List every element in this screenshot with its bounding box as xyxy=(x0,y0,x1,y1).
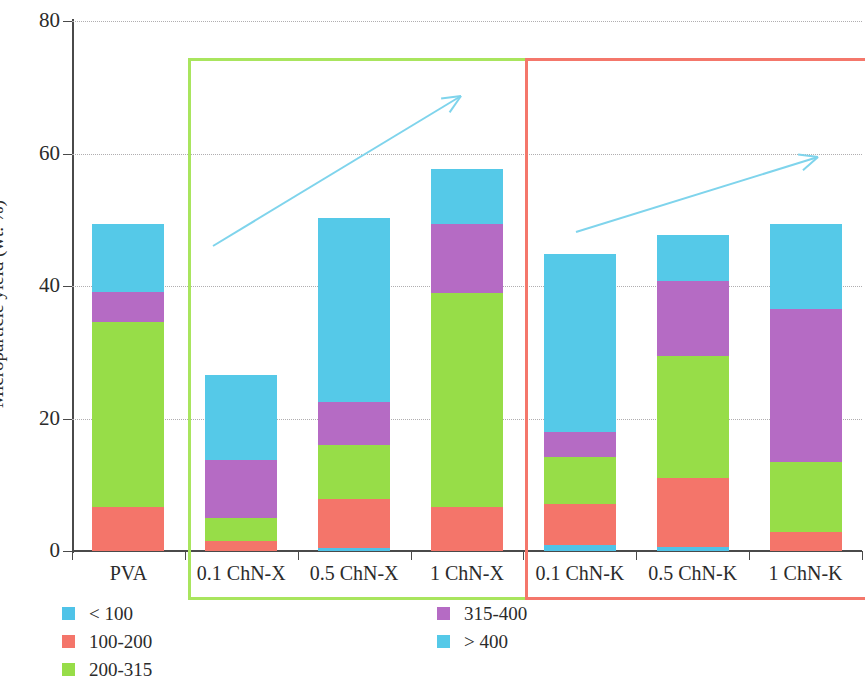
legend-label: 100-200 xyxy=(89,632,152,651)
legend-label: > 400 xyxy=(464,632,508,651)
y-tick-label: 0 xyxy=(50,540,61,561)
y-tick-mark xyxy=(63,21,72,22)
y-tick-mark xyxy=(63,419,72,420)
legend-label: 200-315 xyxy=(89,660,152,678)
y-axis-title: Microparticle yield (wt. %) xyxy=(0,200,8,408)
legend-label: 315-400 xyxy=(464,604,527,623)
legend-item[interactable]: < 100 xyxy=(62,604,133,623)
x-tick-mark xyxy=(72,551,73,560)
y-tick-mark xyxy=(63,551,72,552)
legend-item[interactable]: 100-200 xyxy=(62,632,152,651)
y-tick-mark xyxy=(63,154,72,155)
bar-segment[interactable] xyxy=(92,292,164,322)
y-tick-label: 20 xyxy=(39,408,60,429)
bar-segment[interactable] xyxy=(92,224,164,292)
legend-swatch-icon xyxy=(62,663,75,676)
chn-k-group xyxy=(525,58,865,600)
legend-item[interactable]: 200-315 xyxy=(62,660,152,678)
legend-swatch-icon xyxy=(62,607,75,620)
bar-segment[interactable] xyxy=(92,507,164,551)
chart-legend: < 100100-200200-315315-400> 400 xyxy=(62,604,802,678)
x-tick-mark xyxy=(185,551,186,560)
y-tick-label: 40 xyxy=(39,275,60,296)
y-tick-label: 60 xyxy=(39,143,60,164)
x-axis-label-pva: PVA xyxy=(72,562,185,585)
y-tick-mark xyxy=(63,286,72,287)
bar-pva[interactable] xyxy=(92,21,164,551)
y-tick-label: 80 xyxy=(39,10,60,31)
legend-swatch-icon xyxy=(62,635,75,648)
chn-x-group xyxy=(188,58,528,600)
legend-swatch-icon xyxy=(437,635,450,648)
legend-swatch-icon xyxy=(437,607,450,620)
legend-item[interactable]: > 400 xyxy=(437,632,508,651)
bar-segment[interactable] xyxy=(92,322,164,507)
legend-label: < 100 xyxy=(89,604,133,623)
legend-item[interactable]: 315-400 xyxy=(437,604,527,623)
